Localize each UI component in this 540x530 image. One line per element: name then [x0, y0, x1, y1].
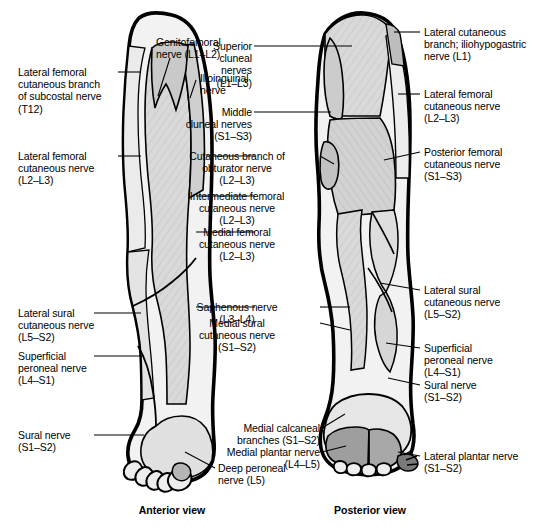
- label-lateral-sural-cutaneous-nerve-anterior: Lateral sural cutaneous nerve (L5–S2): [18, 307, 108, 344]
- obturator-branch-territory: [320, 142, 339, 190]
- label-sural-nerve-anterior: Sural nerve (S1–S2): [18, 429, 108, 453]
- label-sural-nerve-posterior: Sural nerve (S1–S2): [424, 379, 536, 403]
- label-posterior-femoral-cutaneous-nerve: Posterior femoral cutaneous nerve (S1–S3…: [424, 146, 536, 183]
- label-middle-cluneal-nerves: Middle cluneal nerves (S1–S3): [152, 106, 252, 143]
- label-medial-femoral-cutaneous-nerve: Medial femoral cutaneous nerve (L2–L3): [152, 226, 322, 263]
- label-superficial-peroneal-nerve-anterior: Superficial peroneal nerve (L4–S1): [18, 350, 108, 387]
- label-lateral-femoral-cutaneous-nerve-anterior: Lateral femoral cutaneous nerve (L2–L3): [18, 150, 130, 187]
- label-superficial-peroneal-nerve-posterior: Superficial peroneal nerve (L4–S1): [424, 342, 536, 379]
- posterior-limb: [316, 13, 418, 476]
- label-cutaneous-branch-obturator-nerve: Cutaneous branch of obturator nerve (L2–…: [152, 150, 322, 187]
- label-medial-sural-cutaneous-nerve: Medial sural cutaneous nerve (S1–S2): [152, 317, 322, 354]
- label-lateral-cutaneous-branch-iliohypogastric: Lateral cutaneous branch; iliohypogastri…: [424, 26, 540, 63]
- label-lateral-plantar-nerve: Lateral plantar nerve (S1–S2): [424, 450, 540, 474]
- label-lateral-femoral-cutaneous-nerve-posterior: Lateral femoral cutaneous nerve (L2–L3): [424, 88, 536, 125]
- label-superior-cluneal-nerves: Superior cluneal nerves (L1–L3): [168, 40, 252, 89]
- medial-plantar-territory: [326, 427, 369, 467]
- caption-posterior-view: Posterior view: [310, 504, 430, 516]
- label-deep-peroneal-nerve: Deep peroneal nerve (L5): [218, 462, 318, 486]
- label-medial-calcaneal-branches: Medial calcaneal branches (S1–S2): [182, 422, 320, 446]
- label-lateral-femoral-cutaneous-branch-subcostal: Lateral femoral cutaneous branch of subc…: [18, 66, 130, 115]
- label-lateral-sural-cutaneous-nerve-posterior: Lateral sural cutaneous nerve (L5–S2): [424, 284, 536, 321]
- nerve-distribution-figure: Lateral femoral cutaneous branch of subc…: [0, 0, 540, 530]
- label-intermediate-femoral-cutaneous-nerve: Intermediate femoral cutaneous nerve (L2…: [152, 190, 322, 227]
- caption-anterior-view: Anterior view: [112, 504, 232, 516]
